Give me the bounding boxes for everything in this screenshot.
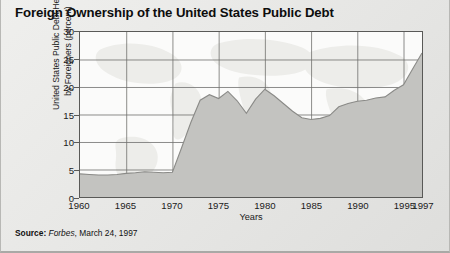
y-axis-tick-label: 30 <box>51 26 74 37</box>
x-axis-tick-label: 1997 <box>412 200 433 211</box>
source-label: Source: <box>15 228 46 238</box>
chart-figure: Foreign Ownership of the United States P… <box>0 0 450 253</box>
x-axis-tick-label: 1990 <box>347 200 368 211</box>
plot-area <box>79 31 423 198</box>
source-publication: Forbes <box>49 228 75 238</box>
y-axis-tick-label: 10 <box>51 137 74 148</box>
x-axis-tick-label: 1965 <box>115 200 136 211</box>
plot-wrapper <box>79 31 423 198</box>
x-axis-tick-label: 1985 <box>301 200 322 211</box>
y-axis-tick-mark <box>74 198 79 199</box>
x-axis-label: Years <box>79 212 423 222</box>
x-axis-tick-label: 1980 <box>254 200 275 211</box>
x-axis-tick-label: 1975 <box>208 200 229 211</box>
y-axis-tick-label: 15 <box>51 109 74 120</box>
y-axis-tick-label: 25 <box>51 53 74 64</box>
y-axis-tick-label: 5 <box>51 165 74 176</box>
x-axis-tick-label: 1970 <box>161 200 182 211</box>
x-axis-tick-label: 1960 <box>68 200 89 211</box>
source-date: , March 24, 1997 <box>75 228 138 238</box>
source-note: Source: Forbes, March 24, 1997 <box>15 228 137 238</box>
y-axis-tick-label: 20 <box>51 81 74 92</box>
area-chart-svg <box>80 32 422 197</box>
y-axis-ticks: 051015202530 <box>51 31 74 198</box>
